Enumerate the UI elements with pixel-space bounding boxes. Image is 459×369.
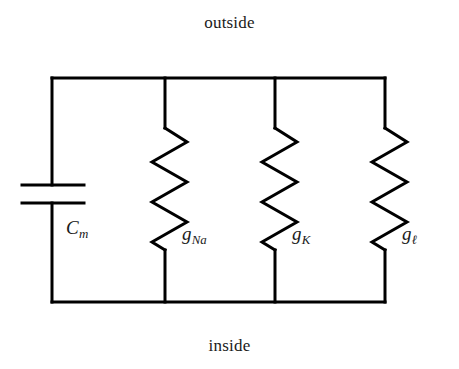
leak-conductance-label-sub: ℓ [412, 232, 417, 247]
circuit-schematic [0, 0, 459, 369]
sodium-conductance-label-main: g [182, 223, 192, 244]
capacitance-label-sub: m [79, 226, 88, 241]
capacitance-label: Cm [66, 218, 88, 237]
sodium-conductance-label: gNa [182, 224, 207, 243]
capacitance-label-main: C [66, 217, 79, 238]
inside-rail-label: inside [0, 337, 459, 354]
leak-conductance-label-main: g [402, 223, 412, 244]
potassium-conductance-label-sub: K [302, 232, 311, 247]
circuit-diagram: outside Cm gNa gK [0, 0, 459, 369]
sodium-conductance-label-sub: Na [192, 232, 207, 247]
leak-conductance-label: gℓ [402, 224, 417, 243]
potassium-conductance-label-main: g [292, 223, 302, 244]
potassium-conductance-label: gK [292, 224, 310, 243]
